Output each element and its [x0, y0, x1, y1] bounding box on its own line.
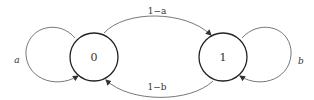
markov-chain-diagram: 0 1 a 1−a 1−b b: [0, 0, 314, 100]
self-loop-1: [240, 27, 291, 82]
edge-0-to-1: [104, 16, 211, 35]
state-1-label: 1: [220, 51, 227, 64]
self-loop-1-label: b: [298, 56, 304, 66]
edge-0-to-1-label: 1−a: [148, 6, 167, 16]
self-loop-0-label: a: [14, 55, 19, 65]
state-0-label: 0: [91, 51, 98, 64]
edge-1-to-0-label: 1−b: [147, 82, 166, 92]
